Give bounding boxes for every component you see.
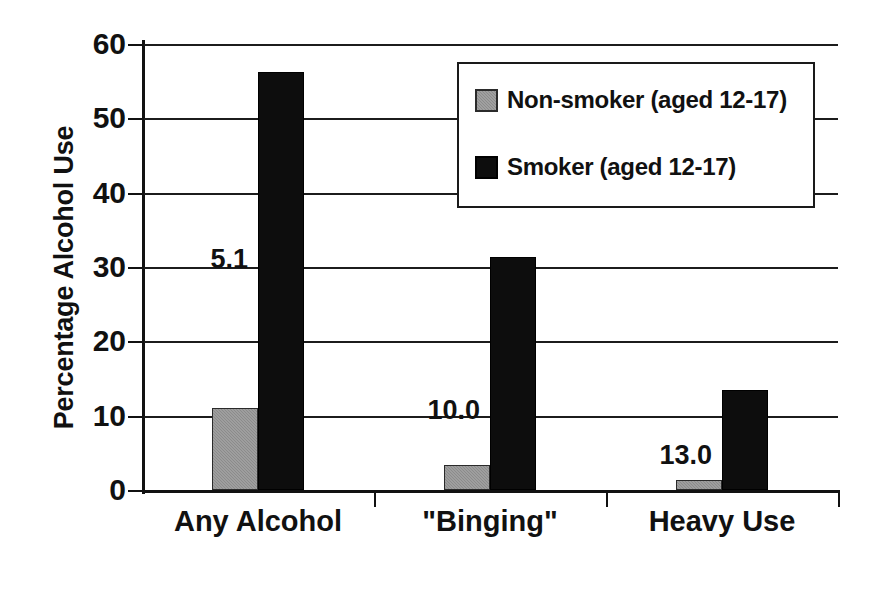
y-tick-mark-40 bbox=[128, 193, 144, 195]
legend-swatch-gray-icon bbox=[475, 89, 498, 112]
gridline-60 bbox=[142, 44, 838, 46]
bar-non-smoker-2 bbox=[676, 480, 722, 490]
y-tick-label-20: 20 bbox=[52, 326, 126, 356]
annotation-any-alcohol: 5.1 bbox=[48, 244, 248, 275]
legend-entry-smoker: Smoker (aged 12-17) bbox=[475, 153, 736, 181]
bar-non-smoker-0 bbox=[212, 408, 258, 491]
y-tick-mark-60 bbox=[128, 44, 144, 46]
annotation-heavy-use: 13.0 bbox=[512, 440, 712, 471]
bar-non-smoker-1 bbox=[444, 465, 490, 490]
y-tick-mark-50 bbox=[128, 118, 144, 120]
y-tick-label-60: 60 bbox=[52, 29, 126, 59]
annotation-binging: 10.0 bbox=[280, 395, 480, 426]
category-label-heavy-use: Heavy Use bbox=[562, 505, 881, 538]
chart-legend: Non-smoker (aged 12-17) Smoker (aged 12-… bbox=[457, 62, 815, 208]
x-axis-baseline bbox=[142, 490, 838, 493]
legend-entry-non-smoker: Non-smoker (aged 12-17) bbox=[475, 86, 787, 114]
legend-swatch-black-icon bbox=[475, 156, 498, 179]
bar-smoker-0 bbox=[258, 72, 304, 490]
legend-label-smoker: Smoker (aged 12-17) bbox=[507, 153, 736, 181]
y-tick-mark-0 bbox=[128, 490, 144, 492]
bar-chart-figure: Percentage Alcohol Use 60 50 40 30 20 10… bbox=[0, 0, 881, 601]
legend-label-non-smoker: Non-smoker (aged 12-17) bbox=[507, 86, 787, 114]
y-tick-label-10: 10 bbox=[52, 401, 126, 431]
y-tick-label-40: 40 bbox=[52, 178, 126, 208]
y-tick-mark-10 bbox=[128, 416, 144, 418]
y-tick-mark-20 bbox=[128, 341, 144, 343]
bar-smoker-2 bbox=[722, 390, 768, 490]
y-tick-label-50: 50 bbox=[52, 103, 126, 133]
y-tick-label-0: 0 bbox=[52, 475, 126, 505]
